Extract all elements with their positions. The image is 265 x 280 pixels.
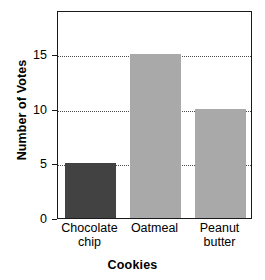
y-tick-mark (52, 55, 57, 56)
x-tick-label: Peanut butter (187, 222, 252, 249)
y-tick-mark (52, 110, 57, 111)
x-axis-title: Cookies (0, 258, 265, 272)
y-tick-mark (52, 164, 57, 165)
x-tick-label: Chocolate chip (57, 222, 122, 249)
bar-chart: Number of Votes 051015 Chocolate chipOat… (0, 0, 265, 280)
bar (130, 54, 181, 218)
y-tick-label: 10 (5, 103, 47, 116)
plot-area (57, 11, 252, 219)
y-tick-label: 15 (5, 49, 47, 62)
bar (195, 109, 246, 218)
y-tick-label: 5 (5, 158, 47, 171)
bar (65, 163, 116, 218)
x-tick-label: Oatmeal (122, 222, 187, 236)
y-tick-label: 0 (5, 213, 47, 226)
y-tick-mark (52, 219, 57, 220)
